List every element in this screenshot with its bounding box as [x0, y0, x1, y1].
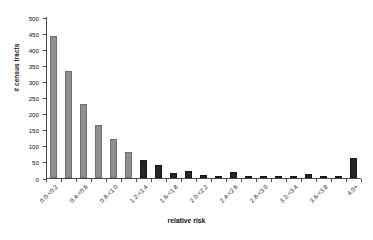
x-axis-tick [91, 179, 92, 182]
bar [320, 176, 327, 178]
bar [185, 171, 192, 178]
bar [155, 165, 162, 178]
y-axis-tick-label: 500 [29, 14, 39, 21]
x-axis-tick [121, 179, 122, 182]
bar [350, 158, 357, 178]
x-axis-line [46, 178, 361, 179]
bar [290, 176, 297, 178]
x-axis-tick [211, 179, 212, 182]
x-axis-tick [151, 179, 152, 182]
bar [305, 174, 312, 178]
bar [65, 71, 72, 178]
x-axis-tick [241, 179, 242, 182]
bar [95, 125, 102, 178]
x-axis-tick [136, 179, 137, 182]
bar [215, 176, 222, 178]
bar [275, 176, 282, 178]
bar-chart: # census tracts 050100150200250300350400… [0, 0, 373, 240]
y-axis-tick-label: 250 [29, 95, 39, 102]
bar [335, 176, 342, 178]
x-axis-tick [46, 179, 47, 182]
x-axis-tick [301, 179, 302, 182]
bar [50, 36, 57, 178]
x-axis-tick [346, 179, 347, 182]
y-axis-tick-label: 0 [36, 175, 39, 182]
bar-series [46, 17, 361, 178]
y-axis-tick-label: 150 [29, 127, 39, 134]
x-axis-title: relative risk [0, 217, 373, 224]
x-axis-tick [256, 179, 257, 182]
y-axis-tick-label: 100 [29, 143, 39, 150]
bar [170, 173, 177, 178]
x-axis-tick [106, 179, 107, 182]
x-axis-tick [166, 179, 167, 182]
plot-area: 050100150200250300350400450500 [46, 17, 361, 179]
bar [140, 160, 147, 178]
x-axis-tick [76, 179, 77, 182]
x-axis-tick [226, 179, 227, 182]
y-axis-tick-label: 300 [29, 78, 39, 85]
bar [110, 139, 117, 178]
y-axis-tick-label: 400 [29, 46, 39, 53]
bar [260, 176, 267, 178]
x-axis-tick [316, 179, 317, 182]
bar [245, 176, 252, 178]
x-axis-tick [61, 179, 62, 182]
bar [200, 175, 207, 178]
x-axis-tick [331, 179, 332, 182]
x-axis-tick [286, 179, 287, 182]
bar [80, 104, 87, 178]
bar [125, 152, 132, 178]
x-axis-tick [196, 179, 197, 182]
y-axis-tick-label: 450 [29, 30, 39, 37]
y-axis-tick-label: 200 [29, 111, 39, 118]
y-axis-tick-label: 350 [29, 62, 39, 69]
y-axis-title: # census tracts [13, 8, 20, 128]
x-axis-tick [271, 179, 272, 182]
bar [230, 172, 237, 178]
x-axis-tick [181, 179, 182, 182]
y-axis-tick-label: 50 [32, 159, 39, 166]
x-axis-tick [361, 179, 362, 182]
